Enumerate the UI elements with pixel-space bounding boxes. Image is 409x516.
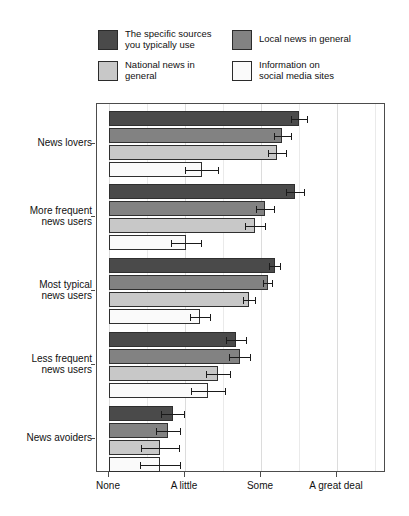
error-bar-cap <box>274 133 275 140</box>
error-bar <box>263 283 272 284</box>
error-bar-cap <box>229 354 230 361</box>
error-bar-cap <box>268 150 269 157</box>
bar <box>109 111 299 126</box>
legend-label-specific-sources: The specific sources you typically use <box>125 29 212 50</box>
legend-label-local-news: Local news in general <box>259 34 351 45</box>
y-axis-tick-label: Less frequent news users <box>0 353 92 376</box>
error-bar-cap <box>274 206 275 213</box>
bar <box>109 201 265 216</box>
error-bar-cap <box>245 223 246 230</box>
error-bar <box>140 465 180 466</box>
error-bar-cap <box>250 354 251 361</box>
bar-group <box>97 332 384 400</box>
error-bar-cap <box>141 445 142 452</box>
y-axis-tick-label: News lovers <box>0 137 92 149</box>
error-bar <box>206 374 230 375</box>
error-bar <box>286 192 304 193</box>
bar <box>109 275 268 290</box>
error-bar <box>274 136 291 137</box>
bar-group <box>97 184 384 252</box>
bar <box>109 366 218 381</box>
bar <box>109 145 277 160</box>
error-bar <box>291 119 308 120</box>
error-bar-cap <box>265 223 266 230</box>
bar <box>109 184 295 199</box>
error-bar-cap <box>269 263 270 270</box>
error-bar-cap <box>291 133 292 140</box>
error-bar-cap <box>255 297 256 304</box>
error-bar-cap <box>190 314 191 321</box>
bar <box>109 309 200 324</box>
error-bar-cap <box>280 263 281 270</box>
error-bar <box>185 170 218 171</box>
error-bar-cap <box>291 116 292 123</box>
error-bar-cap <box>184 411 185 418</box>
error-bar-cap <box>286 189 287 196</box>
error-bar-cap <box>179 445 180 452</box>
error-bar-cap <box>180 462 181 469</box>
chart-plot-area <box>96 103 385 472</box>
legend-item-local-news: Local news in general <box>232 24 398 55</box>
error-bar-cap <box>191 388 192 395</box>
error-bar-cap <box>307 116 308 123</box>
legend-label-social-media: Information on social media sites <box>259 60 334 81</box>
error-bar <box>161 414 184 415</box>
error-bar-cap <box>304 189 305 196</box>
legend-swatch-specific-sources <box>98 30 118 50</box>
legend-item-social-media: Information on social media sites <box>232 55 398 86</box>
error-bar-cap <box>286 150 287 157</box>
y-axis-tick-mark <box>91 290 95 291</box>
bar <box>109 258 275 273</box>
error-bar <box>191 391 224 392</box>
error-bar-cap <box>201 240 202 247</box>
x-axis-tick-mark <box>184 472 185 477</box>
error-bar-cap <box>156 428 157 435</box>
error-bar-cap <box>185 167 186 174</box>
error-bar <box>229 357 250 358</box>
bar-group <box>97 406 384 474</box>
error-bar <box>245 226 265 227</box>
x-axis-tick-label: Some <box>247 480 273 491</box>
y-axis-tick-mark <box>91 216 95 217</box>
error-bar-cap <box>180 428 181 435</box>
error-bar <box>171 243 201 244</box>
error-bar <box>243 300 255 301</box>
error-bar <box>269 266 280 267</box>
error-bar-cap <box>226 337 227 344</box>
bar <box>109 332 236 347</box>
error-bar-cap <box>263 280 264 287</box>
y-axis-tick-label: More frequent news users <box>0 205 92 228</box>
legend-swatch-national-news <box>98 61 118 81</box>
error-bar-cap <box>225 388 226 395</box>
error-bar <box>268 153 286 154</box>
legend-label-national-news: National news in general <box>125 60 226 81</box>
x-axis-tick-mark <box>108 472 109 477</box>
error-bar <box>156 431 180 432</box>
error-bar-cap <box>206 371 207 378</box>
error-bar-cap <box>171 240 172 247</box>
y-axis-tick-mark <box>91 364 95 365</box>
x-axis-tick-label: None <box>96 480 120 491</box>
x-axis-tick-label: A little <box>171 480 198 491</box>
x-axis-tick-mark <box>260 472 261 477</box>
error-bar <box>190 317 210 318</box>
error-bar-cap <box>246 337 247 344</box>
legend-swatch-local-news <box>232 30 252 50</box>
y-axis-tick-label: Most typical news users <box>0 279 92 302</box>
chart-legend: The specific sources you typically use L… <box>98 24 398 86</box>
bar <box>109 349 240 364</box>
legend-item-specific-sources: The specific sources you typically use <box>98 24 226 55</box>
y-axis-tick-mark <box>91 438 95 439</box>
error-bar <box>226 340 246 341</box>
y-axis-tick-mark <box>91 143 95 144</box>
legend-item-national-news: National news in general <box>98 55 226 86</box>
error-bar-cap <box>230 371 231 378</box>
error-bar-cap <box>140 462 141 469</box>
error-bar-cap <box>256 206 257 213</box>
x-axis-tick-mark <box>336 472 337 477</box>
legend-swatch-social-media <box>232 61 252 81</box>
error-bar-cap <box>272 280 273 287</box>
x-axis-tick-label: A great deal <box>309 480 362 491</box>
error-bar-cap <box>243 297 244 304</box>
bar <box>109 128 282 143</box>
